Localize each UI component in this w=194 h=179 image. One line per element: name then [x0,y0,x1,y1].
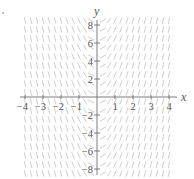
slope-segment [144,144,146,150]
slope-segment [66,72,68,78]
slope-segment [107,153,110,158]
slope-segment [72,144,74,150]
slope-segment [48,72,50,78]
y-tick-label: 8 [88,20,93,31]
slope-segment [30,81,31,87]
slope-segment [156,72,157,78]
slope-segment [120,135,122,141]
slope-segment [150,153,151,159]
slope-segment [120,72,122,78]
slope-segment [48,27,50,33]
slope-segment [120,126,122,132]
slope-segment [126,99,128,105]
slope-segment [60,126,62,132]
slope-segment [150,171,151,177]
slope-segment [30,126,31,132]
slope-segment [107,117,110,122]
slope-segment [42,153,43,159]
slope-segment [100,100,105,103]
slope-segment [144,72,146,78]
slope-segment [120,18,122,24]
slope-segment [100,55,105,58]
slope-segment [24,54,25,60]
slope-segment [126,72,128,78]
slope-segment [114,36,117,41]
slope-segment [78,117,81,122]
slope-segment [126,63,128,69]
slope-segment [114,171,117,176]
slope-segment [144,171,146,177]
slope-segment [66,126,68,132]
slope-segment [162,18,163,24]
slope-segment [107,99,110,104]
slope-segment [107,81,110,86]
slope-segment [132,171,134,177]
slope-segment [120,81,122,87]
slope-segment [138,63,140,69]
slope-segment [78,81,81,86]
slope-segment [126,45,128,51]
slope-segment [107,27,110,32]
slope-segment [42,63,43,69]
slope-segment [36,171,37,177]
slope-segment [162,99,163,105]
slope-segment [30,45,31,51]
x-tick-label: 4 [166,101,172,112]
slope-segment [100,163,105,166]
slope-segment [150,144,151,150]
slope-segment [72,135,74,141]
slope-segment [162,162,163,168]
slope-segment [168,162,169,168]
slope-segment [162,108,163,114]
slope-segment [144,45,146,51]
slope-segment [60,27,62,33]
slope-segment [100,64,105,67]
slope-segment [72,162,74,168]
slope-segment [24,135,25,141]
slope-segment [48,90,50,96]
slope-segment [60,81,62,87]
slope-segment [100,145,105,148]
slope-segment [30,72,31,78]
slope-segment [60,45,62,51]
slope-segment [107,171,110,176]
slope-segment [150,36,151,42]
slope-segment [42,54,43,60]
slope-segment [48,162,50,168]
slope-segment [156,135,157,141]
slope-segment [114,90,117,95]
slope-segment [66,171,68,177]
slope-segment [42,171,43,177]
slope-segment [120,99,122,105]
slope-segment [54,135,56,141]
slope-segment [150,18,151,24]
x-tick-label: 2 [130,101,135,112]
slope-segment [48,126,50,132]
slope-segment [114,153,117,158]
slope-segment [24,117,25,123]
slope-segment [30,153,31,159]
slope-segment [138,18,140,24]
y-axis-label: y [93,4,100,18]
slope-segment [48,108,50,114]
slope-segment [107,45,110,50]
slope-segment [36,162,37,168]
slope-segment [132,63,134,69]
slope-segment [36,72,37,78]
slope-segment [54,18,56,24]
slope-segment [54,153,56,159]
slope-segment [66,81,68,87]
slope-segment [132,162,134,168]
slope-segment [24,126,25,132]
slope-segment [36,36,37,42]
slope-segment [24,36,25,42]
slope-segment [168,18,169,24]
slope-segment [126,90,128,96]
slope-segment [60,171,62,177]
slope-segment [83,27,86,32]
slope-segment [168,27,169,33]
slope-segment [126,135,128,141]
slope-segment [138,72,140,78]
slope-segment [24,72,25,78]
slope-segment [42,90,43,96]
